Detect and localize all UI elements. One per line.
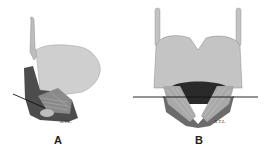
panel-b-signature: R.T.L. bbox=[214, 119, 226, 124]
panel-a-label: A bbox=[54, 134, 62, 146]
panel-a-signature: R.T.L. bbox=[60, 119, 72, 124]
panel-b-drawing bbox=[133, 8, 258, 128]
larynx-illustration bbox=[0, 0, 266, 154]
figure: R.T.L. R.T.L. A B bbox=[0, 0, 266, 154]
panel-b-label: B bbox=[195, 134, 203, 146]
panel-a-drawing bbox=[13, 17, 100, 122]
